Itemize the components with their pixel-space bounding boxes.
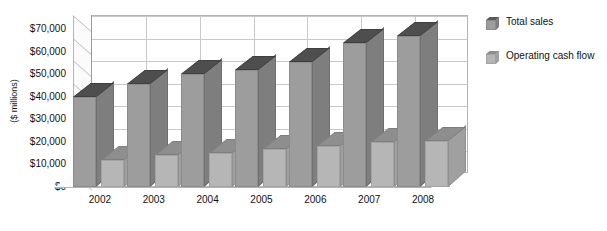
bar-2004-series-1[interactable] xyxy=(181,74,204,187)
y-axis-tick-label: $20,000 xyxy=(10,137,66,147)
bar-2007-series-2[interactable] xyxy=(371,142,394,187)
y-axis-tick-label: $60,000 xyxy=(10,47,66,57)
x-axis-tick-label: 2006 xyxy=(288,194,342,205)
y-axis-tick-label: $40,000 xyxy=(10,92,66,102)
y-axis-tick-label: $70,000 xyxy=(10,24,66,34)
bar-2003-series-1[interactable] xyxy=(127,84,150,187)
x-axis-tick-label: 2004 xyxy=(181,194,235,205)
bar-front-face xyxy=(73,97,96,187)
bar-2002-series-1[interactable] xyxy=(73,97,96,187)
bar-front-face xyxy=(209,153,232,187)
bar-front-face xyxy=(397,36,420,187)
bar-2004-series-2[interactable] xyxy=(209,153,232,187)
y-axis-tick-label: $50,000 xyxy=(10,69,66,79)
legend-item-operating-cash-flow[interactable]: Operating cash flow xyxy=(486,48,604,82)
bar-front-face xyxy=(263,149,286,187)
y-axis-tick-label: $30,000 xyxy=(10,114,66,124)
y-axis-tick xyxy=(74,38,92,55)
y-axis-tick xyxy=(74,61,92,78)
bar-front-face xyxy=(371,142,394,187)
bar-2005-series-1[interactable] xyxy=(235,70,258,187)
series-1-swatch-icon xyxy=(486,17,499,30)
legend-item-total-sales[interactable]: Total sales xyxy=(486,14,604,48)
bar-2006-series-1[interactable] xyxy=(289,62,312,187)
bar-front-face xyxy=(101,160,124,187)
bar-front-face xyxy=(155,155,178,187)
bar-2006-series-2[interactable] xyxy=(317,146,340,187)
y-axis-tick-label: $10,000 xyxy=(10,159,66,169)
bar-front-face xyxy=(235,70,258,187)
x-axis-tick-label: 2002 xyxy=(73,194,127,205)
plot-area xyxy=(73,15,468,187)
bar-front-face xyxy=(425,141,448,187)
bar-front-face xyxy=(181,74,204,187)
gridline xyxy=(92,16,467,17)
bar-front-face xyxy=(289,62,312,187)
bar-2007-series-1[interactable] xyxy=(343,43,366,187)
bar-front-face xyxy=(127,84,150,187)
x-axis-tick-label: 2003 xyxy=(127,194,181,205)
x-axis-tick-label: 2008 xyxy=(396,194,450,205)
y-axis-tick-labels: $0$10,000$20,000$30,000$40,000$50,000$60… xyxy=(10,0,66,231)
bar-front-face xyxy=(317,146,340,187)
legend-label-operating-cash-flow: Operating cash flow xyxy=(506,50,594,61)
x-axis-tick-label: 2007 xyxy=(342,194,396,205)
legend-label-total-sales: Total sales xyxy=(506,16,553,27)
chart-legend: Total sales Operating cash flow xyxy=(486,14,604,82)
bar-2008-series-1[interactable] xyxy=(397,36,420,187)
y-axis-tick xyxy=(74,16,92,33)
bar-2003-series-2[interactable] xyxy=(155,155,178,187)
x-axis-tick-label: 2005 xyxy=(235,194,289,205)
series-2-swatch-icon xyxy=(486,51,499,64)
bar-front-face xyxy=(343,43,366,187)
bar-2005-series-2[interactable] xyxy=(263,149,286,187)
bar-2002-series-2[interactable] xyxy=(101,160,124,187)
bar-2008-series-2[interactable] xyxy=(425,141,448,187)
chart-container: ($ millions) $0$10,000$20,000$30,000$40,… xyxy=(0,0,607,231)
